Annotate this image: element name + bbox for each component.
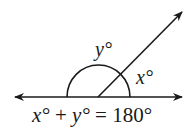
equation: x° + y° = 180°	[32, 103, 152, 128]
equation-x-term: x°	[32, 103, 50, 127]
angle-y-label: y°	[95, 38, 112, 61]
supplementary-angle-diagram: y° x° x° + y° = 180°	[0, 0, 191, 135]
equation-equals: =	[90, 103, 112, 127]
angle-arc	[67, 65, 130, 97]
equation-plus: +	[50, 103, 72, 127]
equation-y-term: y°	[72, 103, 90, 127]
equation-total: 180°	[112, 103, 152, 127]
angle-x-label: x°	[136, 66, 153, 89]
